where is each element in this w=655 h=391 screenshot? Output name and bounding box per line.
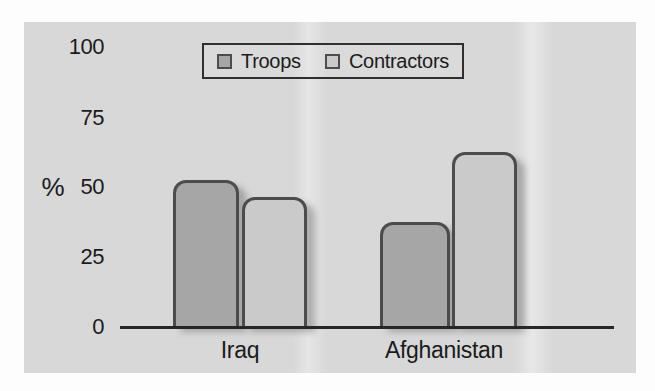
legend-label-troops: Troops [241,50,301,73]
bar-afghanistan-contractors [452,152,517,326]
scanned-chart-page: % 100 75 50 25 0 Troops Contractors Iraq… [0,0,655,391]
legend-item-contractors: Contractors [325,50,449,73]
bar-afghanistan-troops [380,222,450,326]
legend-item-troops: Troops [217,50,301,73]
x-label-iraq: Iraq [173,337,307,364]
legend-label-contractors: Contractors [349,50,449,73]
y-tick-0: 0 [42,314,104,340]
bar-iraq-contractors [242,197,307,326]
y-tick-25: 25 [42,244,104,270]
x-axis-line [120,326,614,329]
legend-swatch-contractors-icon [325,54,340,69]
legend: Troops Contractors [202,43,464,79]
bar-iraq-troops [173,180,239,326]
y-tick-75: 75 [42,105,104,131]
y-tick-100: 100 [42,34,104,60]
legend-swatch-troops-icon [217,54,232,69]
chart-panel: % 100 75 50 25 0 Troops Contractors Iraq… [24,22,636,373]
y-tick-50: 50 [42,174,104,200]
x-label-afghanistan: Afghanistan [354,337,534,364]
